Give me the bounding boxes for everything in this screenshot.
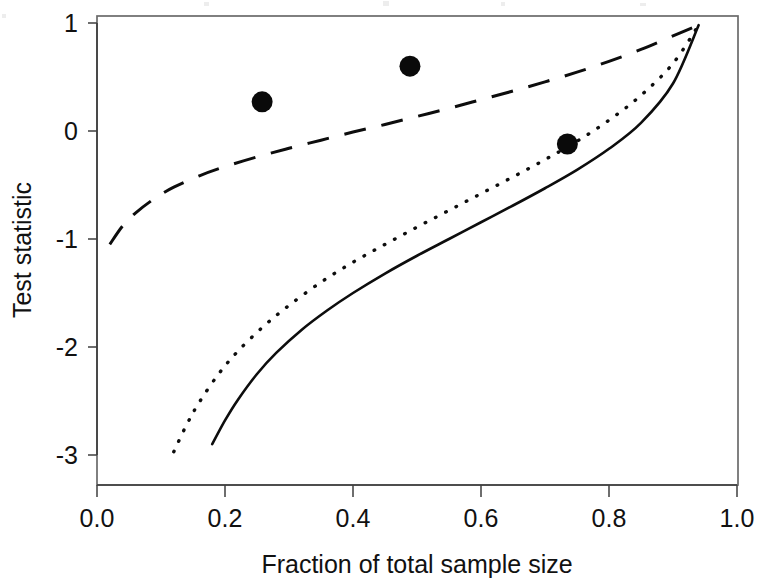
test-statistic-boundary-plot: 1 0 -1 -2 -3 0.0 0.2 0.4 0.6 0.8 1.0 Fra… bbox=[0, 0, 759, 583]
series-solid-boundary bbox=[212, 25, 698, 444]
x-tick-label: 0.6 bbox=[464, 504, 499, 532]
y-axis-ticks bbox=[88, 23, 97, 455]
x-tick-label: 0.8 bbox=[592, 504, 627, 532]
data-point bbox=[399, 56, 420, 77]
y-tick-label: -1 bbox=[56, 225, 78, 253]
x-tick-label: 0.4 bbox=[336, 504, 371, 532]
x-tick-label: 0.0 bbox=[80, 504, 115, 532]
chart-figure: 1 0 -1 -2 -3 0.0 0.2 0.4 0.6 0.8 1.0 Fra… bbox=[0, 0, 759, 583]
data-point bbox=[252, 91, 273, 112]
y-tick-label: 1 bbox=[64, 9, 78, 37]
y-tick-label: 0 bbox=[64, 117, 78, 145]
x-tick-label: 1.0 bbox=[720, 504, 755, 532]
y-tick-label: -3 bbox=[56, 441, 78, 469]
data-point-layer bbox=[252, 56, 578, 155]
x-axis-title: Fraction of total sample size bbox=[261, 550, 572, 578]
x-tick-labels: 0.0 0.2 0.4 0.6 0.8 1.0 bbox=[80, 504, 755, 532]
x-axis-ticks bbox=[97, 485, 737, 497]
plot-frame bbox=[97, 16, 738, 485]
y-tick-label: -2 bbox=[56, 333, 78, 361]
y-tick-labels: 1 0 -1 -2 -3 bbox=[56, 9, 78, 469]
series-dotted-boundary bbox=[174, 25, 699, 452]
curve-layer bbox=[110, 25, 699, 452]
x-tick-label: 0.2 bbox=[208, 504, 243, 532]
data-point bbox=[557, 133, 578, 154]
y-axis-title: Test statistic bbox=[8, 182, 36, 318]
